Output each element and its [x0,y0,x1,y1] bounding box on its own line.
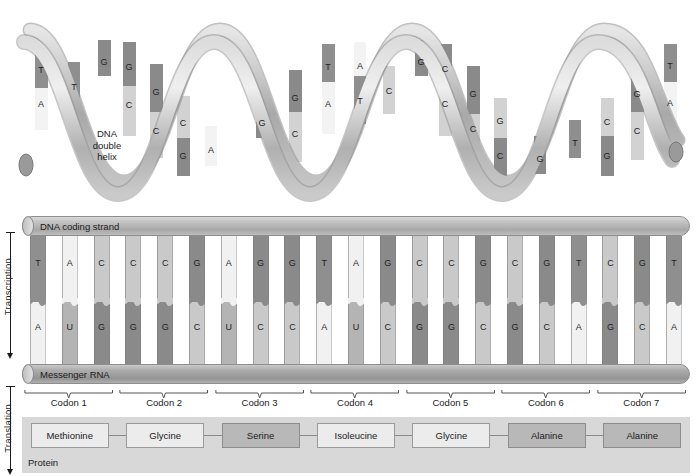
dna-double-helix-panel: DNAdoublehelix TATGGCGCCGAGGCTAATCGCCGCG… [0,0,698,212]
dna-base: G [284,236,300,302]
dna-base: T [571,236,587,302]
amino-acid-label: Isoleucine [335,430,378,441]
base-pair-rung: GC [412,236,428,364]
peptide-bond-link [490,435,507,436]
amino-acid-box: Alanine [603,423,681,448]
codon-bracket [597,386,686,397]
dna-base: A [348,236,364,302]
amino-acid-box: Glycine [126,423,204,448]
rna-base: A [571,298,587,364]
codon-bracket [501,386,590,397]
amino-acid-label: Methionine [46,430,92,441]
base-pair-ladder: ATUAGCGCGCCGUACGCGATUACGGCGCCGGCCGATGCCG… [22,236,690,364]
dna-base-letter: A [226,258,232,268]
codon-bracket [119,386,208,397]
transcription-panel: DNA coding strand ATUAGCGCGCCGUACGCGATUA… [0,212,698,390]
amino-acid-box: Methionine [31,423,109,448]
dna-base: G [539,236,555,302]
rna-base: C [380,298,396,364]
base-pair-rung: CG [475,236,491,364]
dna-base-letter: C [130,258,137,268]
peptide-bond-link [395,435,412,436]
dna-base: T [666,236,682,302]
strand-cap-left [22,364,34,384]
helix-cut-end-right [669,142,683,162]
dna-base: C [125,236,141,302]
base-pair-rung: GC [443,236,459,364]
codon-label: Codon 4 [310,397,399,408]
rna-base-letter: A [35,322,41,332]
codon-group: Codon 6 [501,386,590,412]
amino-acid-label: Serine [247,430,274,441]
codon-bracket [215,386,304,397]
rna-base-letter: C [544,322,551,332]
rna-base-letter: U [353,322,360,332]
dna-base: G [189,236,205,302]
dna-base-letter: T [321,258,327,268]
base-pair-rung: GC [94,236,110,364]
peptide-bond-link [586,435,603,436]
messenger-rna-label: Messenger RNA [40,369,110,380]
rna-base-letter: C [480,322,487,332]
codon-group: Codon 3 [215,386,304,412]
codon-bracket [310,386,399,397]
rna-base-letter: C [194,322,201,332]
codon-group: Codon 4 [310,386,399,412]
rna-base-letter: G [130,322,137,332]
rna-base: G [125,298,141,364]
base-pair-rung: GC [507,236,523,364]
rna-base-letter: A [671,322,677,332]
rna-base-letter: C [639,322,646,332]
dna-helix-illustration [0,0,698,212]
rna-base: G [157,298,173,364]
dna-base-letter: T [576,258,582,268]
dna-base-letter: C [162,258,169,268]
rna-base-letter: U [226,322,233,332]
base-pair-rung: CG [253,236,269,364]
dna-base-letter: C [512,258,519,268]
dna-base: C [157,236,173,302]
rna-base-letter: G [512,322,519,332]
protein-caption: Protein [28,457,58,468]
rna-base-letter: C [289,322,296,332]
dna-base-letter: T [35,258,41,268]
base-pair-rung: CG [189,236,205,364]
dna-base-letter: C [448,258,455,268]
amino-acid-label: Alanine [531,430,563,441]
rna-base: A [316,298,332,364]
dna-coding-strand-bar: DNA coding strand [22,216,690,236]
dna-base-letter: C [416,258,423,268]
rna-base: C [189,298,205,364]
rna-base: G [507,298,523,364]
rna-base: C [284,298,300,364]
dna-base: G [475,236,491,302]
dna-base: G [634,236,650,302]
rna-base: G [602,298,618,364]
dna-double-helix-caption-line: DNA [71,128,143,140]
dna-base-letter: G [193,258,200,268]
peptide-bond-link [300,435,317,436]
base-pair-rung: AT [316,236,332,364]
base-pair-rung: UA [62,236,78,364]
strand-cap-left [22,216,34,236]
amino-acid-box: Isoleucine [317,423,395,448]
codon-row: Codon 1Codon 2Codon 3Codon 4Codon 5Codon… [22,386,690,412]
rna-base-letter: G [416,322,423,332]
codon-label: Codon 3 [215,397,304,408]
dna-base-letter: A [353,258,359,268]
amino-acid-box: Serine [222,423,300,448]
rna-base: C [253,298,269,364]
amino-acid-box: Alanine [508,423,586,448]
rna-base: A [30,298,46,364]
base-pair-rung: AT [30,236,46,364]
rna-base-letter: A [321,322,327,332]
base-pair-rung: CG [539,236,555,364]
rna-base-letter: C [385,322,392,332]
codon-group: Codon 5 [406,386,495,412]
rna-base-letter: G [448,322,455,332]
dna-base: C [94,236,110,302]
base-pair-rung: UA [348,236,364,364]
rna-base-letter: G [607,322,614,332]
dna-base-letter: C [98,258,105,268]
dna-base: C [443,236,459,302]
